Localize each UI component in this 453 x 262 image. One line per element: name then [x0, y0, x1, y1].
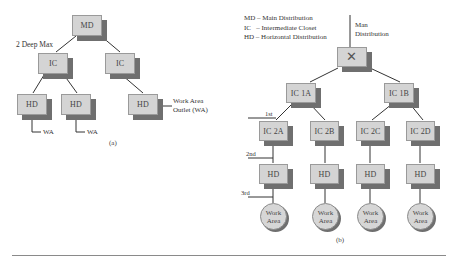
level-marker-3rd: 3rd — [241, 188, 250, 197]
work-area-outlet-note: Work Area Outlet (WA) — [173, 97, 208, 115]
work-area-node-3: WorkArea — [357, 203, 384, 230]
depth-limit-label: 2 Deep Max — [16, 40, 53, 49]
wa-label-2: WA — [87, 128, 98, 137]
caption-a: (a) — [109, 139, 117, 147]
legend-hd: HD – Horizontal Distribution — [244, 33, 327, 43]
legend: MD – Main Distribution IC – Intermediate… — [244, 14, 327, 43]
level-marker-1st: 1st — [265, 109, 273, 118]
hd-node-3: HD — [128, 94, 158, 115]
hd-node-2: HD — [61, 94, 91, 115]
main-distribution-note: Man Distribution — [355, 21, 389, 39]
ic-2c-node: IC 2C — [356, 121, 385, 141]
ic-node-right: IC — [105, 53, 135, 74]
md-node: MD — [72, 15, 102, 36]
hd-node-b3: HD — [356, 164, 385, 184]
ic-1a-node: IC 1A — [286, 83, 316, 103]
wa-label-1: WA — [43, 128, 54, 137]
hd-node-b2: HD — [310, 164, 339, 184]
work-area-node-1: WorkArea — [260, 203, 287, 230]
caption-b: (b) — [336, 236, 344, 244]
legend-ic: IC – Intermediate Closet — [244, 24, 327, 34]
level-marker-2nd: 2nd — [246, 149, 256, 158]
ic-2d-node: IC 2D — [406, 121, 435, 141]
hd-node-1: HD — [17, 94, 47, 115]
bottom-divider — [12, 255, 446, 256]
ic-2a-node: IC 2A — [259, 121, 288, 141]
work-area-node-4: WorkArea — [407, 203, 434, 230]
work-area-outlet-line1: Work Area — [173, 97, 208, 106]
main-distribution-line1: Man — [355, 21, 389, 30]
cross-connect-icon: ✕ — [337, 47, 367, 67]
ic-1b-node: IC 1B — [384, 83, 414, 103]
hd-node-b1: HD — [259, 164, 288, 184]
main-distribution-node: ✕ — [337, 47, 367, 67]
cabling-hierarchy-figure: MD 2 Deep Max IC IC HD HD HD WA WA Work … — [0, 0, 453, 262]
ic-2b-node: IC 2B — [310, 121, 339, 141]
legend-md: MD – Main Distribution — [244, 14, 327, 24]
work-area-outlet-line2: Outlet (WA) — [173, 106, 208, 115]
work-area-node-2: WorkArea — [312, 203, 339, 230]
ic-node-left: IC — [38, 53, 68, 74]
main-distribution-line2: Distribution — [355, 30, 389, 39]
hd-node-b4: HD — [406, 164, 435, 184]
